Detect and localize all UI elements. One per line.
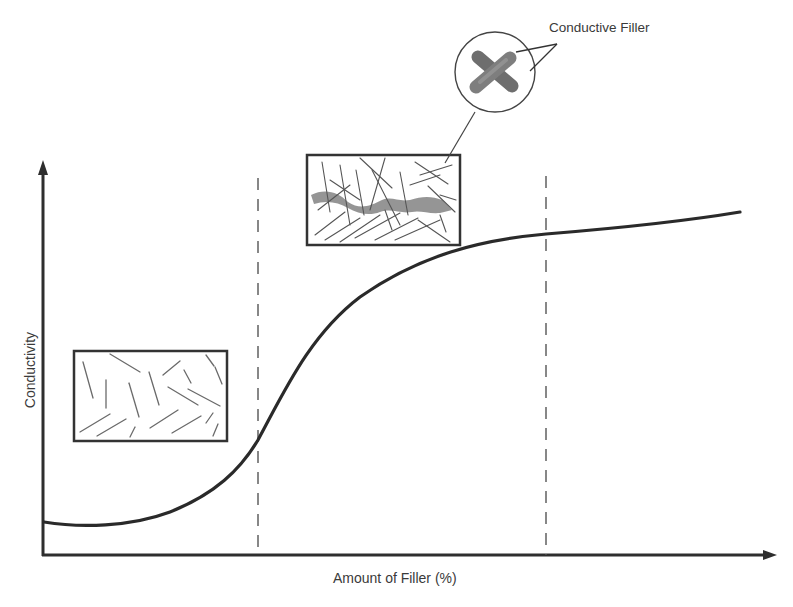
magnified-filler-callout	[455, 32, 557, 112]
x-axis-label: Amount of Filler (%)	[333, 570, 457, 586]
inset-isolated-filler	[74, 351, 227, 441]
inset-conductive-network	[307, 155, 460, 245]
y-axis-arrow-icon	[38, 160, 48, 175]
conductive-filler-label: Conductive Filler	[549, 20, 650, 35]
percolation-diagram	[0, 0, 793, 607]
x-axis-arrow-icon	[763, 550, 777, 560]
y-axis-label: Conductivity	[22, 332, 38, 408]
